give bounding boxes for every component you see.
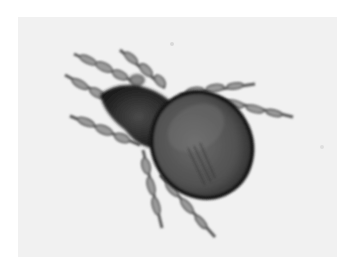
dust-speck — [320, 145, 324, 149]
leg-2 — [120, 50, 168, 89]
mite-illustration — [0, 0, 350, 273]
dust-speck — [170, 42, 174, 46]
